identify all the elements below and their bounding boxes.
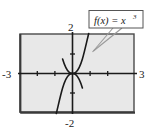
function-graph-figure: f(x) = x 3 -3 3 2 -2 [0,0,151,130]
x-axis-max-label: 3 [139,68,145,80]
callout-equation-label: f(x) = x [94,15,126,27]
y-axis-max-label: 2 [68,21,74,33]
graph-canvas: f(x) = x 3 -3 3 2 -2 [0,0,151,130]
x-axis-min-label: -3 [2,68,12,80]
y-axis-min-label: -2 [65,117,74,129]
callout-equation-exponent: 3 [132,13,137,21]
function-callout: f(x) = x 3 [89,11,143,29]
